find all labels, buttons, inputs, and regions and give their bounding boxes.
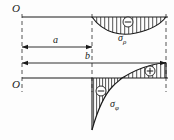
sigma-hoop-subscript: φ	[115, 104, 119, 112]
dimension-a-label: a	[53, 35, 58, 45]
sigma-phi-positive-area	[122, 63, 166, 79]
sigma-radial-subscript: ρ	[123, 38, 126, 46]
negative-sign-marker-hoop	[96, 86, 106, 96]
sigma-hoop-label: σφ	[110, 99, 119, 112]
positive-sign-marker-hoop	[145, 66, 155, 76]
sigma-radial-label: σρ	[118, 33, 126, 46]
negative-sign-marker-radial	[123, 17, 133, 27]
dimension-b-label: b	[85, 51, 90, 61]
stress-distribution-figure: O O a b σρ σφ	[0, 0, 174, 140]
origin-label-bottom: O	[12, 79, 20, 90]
origin-label-top: O	[12, 3, 20, 14]
sigma-phi-positive-hatch	[122, 63, 166, 79]
diagram-canvas	[0, 0, 174, 140]
